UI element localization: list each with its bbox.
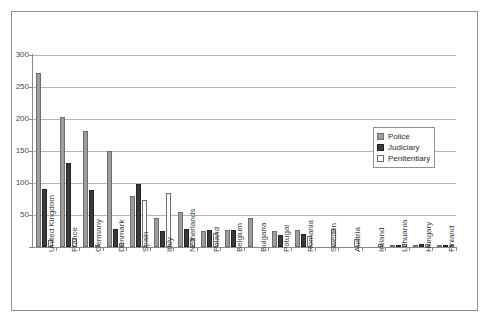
x-label-belgium: Belgium — [236, 223, 244, 252]
bar-police — [60, 117, 65, 247]
x-label-lithuania: Lithuania — [401, 220, 409, 252]
x-tick — [456, 247, 457, 251]
bar-police — [390, 245, 395, 247]
x-label-netherlands: Netherlands — [189, 209, 197, 252]
legend-label-police: Police — [388, 132, 410, 141]
bar-police — [225, 230, 230, 247]
x-label-poland: Poland — [213, 227, 221, 252]
x-label-italy: Italy — [166, 237, 174, 252]
x-tick — [268, 247, 269, 251]
y-axis-label-200: 200 — [3, 115, 29, 123]
x-tick — [79, 247, 80, 251]
x-label-denmark: Denmark — [118, 220, 126, 252]
y-axis-label-100: 100 — [3, 179, 29, 187]
legend-item-judiciary[interactable]: Judiciary — [377, 142, 430, 153]
x-tick — [409, 247, 410, 251]
legend-swatch-icon-judiciary — [377, 144, 384, 151]
y-axis-label-300: 300 — [3, 51, 29, 59]
x-label-germany: Germany — [95, 219, 103, 252]
bar-police — [248, 218, 253, 247]
x-tick — [150, 247, 151, 251]
bar-group — [221, 55, 245, 247]
x-label-spain: Spain — [142, 232, 150, 252]
x-tick — [56, 247, 57, 251]
bar-police — [83, 131, 88, 247]
bar-police — [130, 196, 135, 247]
x-label-finland: Finland — [448, 226, 456, 252]
legend-label-penitentiary: Penitentiary — [388, 154, 430, 163]
legend-swatch-icon-police — [377, 133, 384, 140]
legend-swatch-icon-penitentiary — [377, 155, 384, 162]
y-tick-0 — [29, 247, 33, 248]
bar-group — [245, 55, 269, 247]
x-tick — [315, 247, 316, 251]
x-tick — [244, 247, 245, 251]
x-label-france: France — [71, 227, 79, 252]
bar-police — [107, 151, 112, 247]
bar-group — [269, 55, 293, 247]
x-label-united-kingdom: United Kingdom — [48, 195, 56, 252]
y-axis-label-150: 150 — [3, 147, 29, 155]
chart-screenshot: 50100150200250300 United KingdomFranceGe… — [0, 0, 491, 323]
bar-group — [104, 55, 128, 247]
x-tick — [338, 247, 339, 251]
bar-police — [437, 245, 442, 247]
x-label-austria: Austria — [354, 227, 362, 252]
x-label-sweden: Sweden — [330, 223, 338, 252]
legend-item-police[interactable]: Police — [377, 131, 430, 142]
x-label-romania: Romania — [307, 220, 315, 252]
bar-police — [201, 231, 206, 247]
y-axis-label-50: 50 — [3, 211, 29, 219]
x-tick — [362, 247, 363, 251]
bar-group — [433, 55, 457, 247]
bar-police — [272, 231, 277, 247]
top-caption-strip — [0, 0, 491, 5]
x-label-hungary: Hungary — [425, 222, 433, 252]
y-axis-label-250: 250 — [3, 83, 29, 91]
bar-police — [36, 73, 41, 247]
bar-police — [295, 230, 300, 247]
bar-group — [127, 55, 151, 247]
bar-group — [316, 55, 340, 247]
x-tick — [197, 247, 198, 251]
x-tick — [126, 247, 127, 251]
bar-group — [151, 55, 175, 247]
bar-group — [339, 55, 363, 247]
legend-item-penitentiary[interactable]: Penitentiary — [377, 153, 430, 164]
x-tick — [103, 247, 104, 251]
legend-label-judiciary: Judiciary — [388, 143, 420, 152]
x-label-bulgaria: Bulgaria — [260, 223, 268, 252]
x-tick — [291, 247, 292, 251]
chart-legend: PoliceJudiciaryPenitentiary — [373, 127, 435, 168]
bar-police — [154, 218, 159, 247]
bar-police — [178, 212, 183, 247]
x-label-potugal: Potugal — [283, 225, 291, 252]
bar-group — [57, 55, 81, 247]
bar-police — [413, 245, 418, 247]
bar-group — [292, 55, 316, 247]
bar-group — [198, 55, 222, 247]
x-label-ireland: Ireland — [378, 228, 386, 252]
